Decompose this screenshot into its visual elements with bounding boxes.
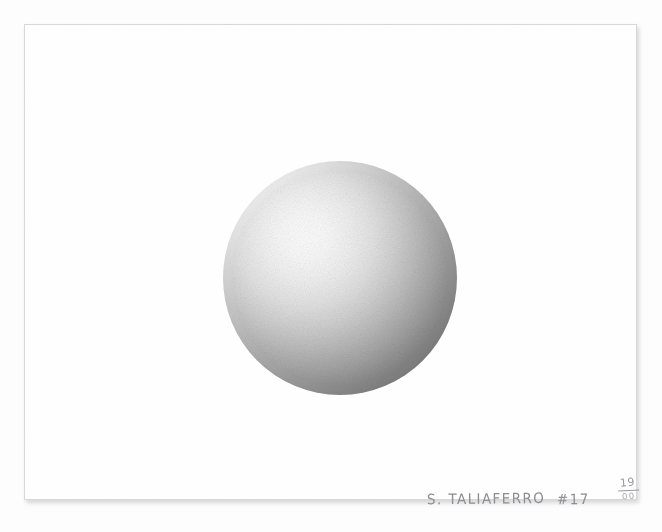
artist-signature: S. TALIAFERRO bbox=[427, 489, 545, 507]
paper-sheet: S. TALIAFERRO #17 19 00 bbox=[24, 24, 637, 500]
plate-number: #17 bbox=[557, 490, 590, 507]
sphere-grain-texture bbox=[223, 161, 457, 395]
artwork-scene: S. TALIAFERRO #17 19 00 bbox=[0, 0, 662, 532]
edition-numerator: 19 bbox=[612, 476, 643, 490]
edition-fraction: 19 00 bbox=[612, 476, 644, 502]
inscription: S. TALIAFERRO #17 19 00 bbox=[427, 477, 647, 517]
edition-denominator: 00 bbox=[613, 490, 644, 502]
sphere-drawing bbox=[223, 161, 457, 395]
